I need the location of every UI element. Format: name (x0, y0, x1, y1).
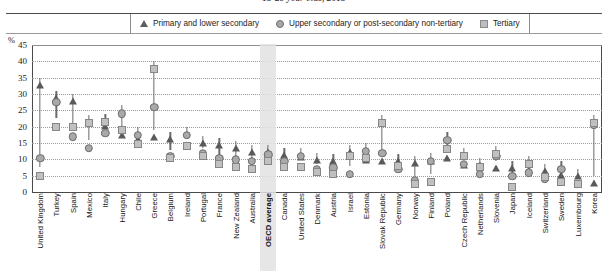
data-point-circle (378, 149, 386, 157)
x-axis-label-slovak-republic: Slovak Republic (378, 193, 387, 249)
x-axis-label-finland: Finland (427, 193, 436, 219)
data-point-square (362, 154, 370, 162)
data-column (472, 45, 488, 192)
data-point-square (313, 168, 321, 176)
data-point-circle (52, 98, 60, 106)
data-point-circle (69, 132, 77, 140)
x-axis-label-australia: Australia (248, 193, 257, 223)
data-column (390, 45, 406, 192)
data-column (97, 45, 113, 192)
data-point-square (166, 154, 174, 162)
triangle-marker-icon (140, 20, 148, 27)
data-point-circle (36, 154, 44, 162)
data-column (521, 45, 537, 192)
data-point-circle (150, 103, 158, 111)
x-axis-label-poland: Poland (443, 193, 452, 217)
data-point-square (394, 162, 402, 170)
chart-root: 15-29 year olds, 2015 Primary and lower … (0, 0, 608, 272)
x-axis-label-canada: Canada (280, 193, 289, 220)
x-axis-label-israel: Israel (346, 193, 355, 212)
x-axis-label-korea: Korea (590, 193, 599, 214)
data-point-triangle (36, 81, 44, 88)
data-column (179, 45, 195, 192)
data-point-triangle (574, 173, 582, 180)
data-point-square (346, 152, 354, 160)
x-axis-label-france: France (215, 193, 224, 217)
data-point-square (52, 123, 60, 131)
legend-item-upper-secondary: Upper secondary or post-secondary non-te… (276, 19, 463, 28)
data-column (309, 45, 325, 192)
data-point-circle (508, 172, 516, 180)
data-point-square (590, 119, 598, 127)
x-axis-label-italy: Italy (101, 193, 110, 207)
data-point-square (460, 152, 468, 160)
data-point-triangle (492, 164, 500, 171)
data-column (586, 45, 602, 192)
x-axis-label-mexico: Mexico (85, 193, 94, 218)
data-column (407, 45, 423, 192)
data-point-triangle (590, 179, 598, 186)
x-axis-label-belgium: Belgium (166, 193, 175, 221)
x-axis-label-czech-republic: Czech Republic (460, 193, 469, 248)
data-point-circle (345, 170, 353, 178)
x-axis-label-denmark: Denmark (313, 193, 322, 225)
data-point-square (297, 163, 305, 171)
data-column (130, 45, 146, 192)
x-axis-label-united-kingdom: United Kingdom (36, 193, 45, 248)
data-point-square (525, 160, 533, 168)
data-column (569, 45, 585, 192)
data-point-triangle (150, 133, 158, 140)
data-point-square (557, 178, 565, 186)
data-column (32, 45, 48, 192)
data-point-square (101, 118, 109, 126)
data-column (488, 45, 504, 192)
square-marker-icon (480, 20, 488, 28)
data-column (276, 45, 292, 192)
data-point-square (541, 173, 549, 181)
x-axis-label-netherlands: Netherlands (476, 193, 485, 235)
data-column (553, 45, 569, 192)
legend-label: Tertiary (493, 19, 520, 28)
data-column (537, 45, 553, 192)
data-column (439, 45, 455, 192)
x-axis-label-portugal: Portugal (199, 193, 208, 222)
data-point-square (280, 163, 288, 171)
x-axis-label-switzerland: Switzerland (541, 193, 550, 233)
data-point-circle (525, 168, 533, 176)
data-point-circle (85, 144, 93, 152)
data-column (423, 45, 439, 192)
x-axis-label-new-zealand: New Zealand (232, 193, 241, 239)
legend-label: Primary and lower secondary (153, 19, 259, 28)
data-point-triangle (443, 155, 451, 162)
x-axis-label-spain: Spain (69, 193, 78, 213)
y-axis-tick-label: 15 (5, 138, 27, 148)
data-point-square (118, 126, 126, 134)
data-point-square (36, 172, 44, 180)
data-point-square (508, 183, 516, 191)
data-point-square (427, 178, 435, 186)
data-column (81, 45, 97, 192)
data-column (341, 45, 357, 192)
data-column (358, 45, 374, 192)
data-column (325, 45, 341, 192)
data-point-square (574, 180, 582, 188)
data-point-square (215, 160, 223, 168)
legend-item-tertiary: Tertiary (480, 19, 520, 28)
data-point-circle (183, 131, 191, 139)
data-point-triangle (248, 148, 256, 155)
data-column (374, 45, 390, 192)
data-point-square (378, 119, 386, 127)
x-axis-label-estonia: Estonia (362, 193, 371, 219)
y-axis-tick-label: 5 (5, 171, 27, 181)
x-axis-label-oecd-average: OECD average (264, 193, 273, 247)
data-column (293, 45, 309, 192)
data-point-square (69, 123, 77, 131)
y-axis-tick-label: 10 (5, 154, 27, 164)
data-column (244, 45, 260, 192)
data-column (504, 45, 520, 192)
data-point-square (199, 152, 207, 160)
data-point-square (411, 180, 419, 188)
x-axis-label-luxembourg: Luxembourg (574, 193, 583, 236)
data-point-square (476, 163, 484, 171)
data-point-triangle (508, 164, 516, 171)
